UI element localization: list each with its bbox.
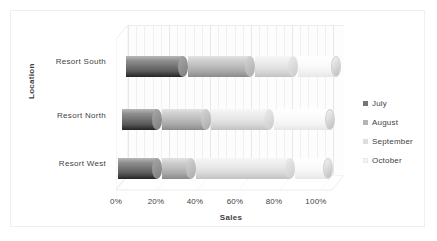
cylinder-body [162,109,206,130]
bar-segment-south-september[interactable] [255,56,298,77]
x-axis-tick-5: 100% [301,197,331,206]
legend-label: October [372,156,402,165]
legend-swatch-icon [363,101,368,106]
cylinder-cap [288,56,298,77]
x-axis-tick-1: 20% [141,197,171,206]
bar-segment-north-july[interactable] [122,109,162,130]
legend-swatch-icon [363,120,368,125]
cylinder-cap [331,56,341,77]
bar-segment-west-july[interactable] [118,158,162,179]
x-axis-title: Sales [161,213,301,222]
bar-segment-north-october[interactable] [274,109,335,130]
cylinder-cap [201,109,211,130]
cylinder-cap [152,158,162,179]
cylinder-cap [152,109,162,130]
bar-segment-north-september[interactable] [211,109,274,130]
x-axis-tick-4: 80% [259,197,289,206]
y-axis-category-label-1: Resort North [31,111,106,120]
x-axis-tick-3: 60% [220,197,250,206]
x-axis-tick-0: 0% [101,197,131,206]
cylinder-cap [245,56,255,77]
cylinder-body [126,56,183,77]
cylinder-cap [325,109,335,130]
plot-area [116,25,344,190]
y-axis-category-label-2: Resort West [31,159,106,168]
cylinder-body [196,158,290,179]
legend-label: August [372,118,398,127]
legend-label: July [372,99,387,108]
legend-item-october[interactable]: October [363,152,413,168]
y-axis-category-label-0: Resort South [31,57,106,66]
bar-segment-south-october[interactable] [298,56,341,77]
bar-segment-south-july[interactable] [126,56,188,77]
cylinder-cap [264,109,274,130]
x-axis-tick-2: 40% [180,197,210,206]
chart-legend: July August September October [363,95,413,171]
bar-segment-north-august[interactable] [162,109,211,130]
bar-segment-west-october[interactable] [295,158,333,179]
bar-segment-west-september[interactable] [196,158,295,179]
y-axis-title: Location [27,63,36,99]
cylinder-body [188,56,250,77]
legend-label: September [372,137,413,146]
plot-back-wall [128,25,344,175]
cylinder-body [274,109,330,130]
legend-item-july[interactable]: July [363,95,413,111]
cylinder-cap [186,158,196,179]
legend-item-august[interactable]: August [363,114,413,130]
legend-swatch-icon [363,158,368,163]
legend-swatch-icon [363,139,368,144]
cylinder-cap [178,56,188,77]
cylinder-body [211,109,269,130]
cylinder-cap [323,158,333,179]
legend-item-september[interactable]: September [363,133,413,149]
bar-segment-west-august[interactable] [162,158,196,179]
chart-frame: Location Resort South Resort North Resor… [10,10,425,227]
bar-segment-south-august[interactable] [188,56,255,77]
cylinder-cap [285,158,295,179]
